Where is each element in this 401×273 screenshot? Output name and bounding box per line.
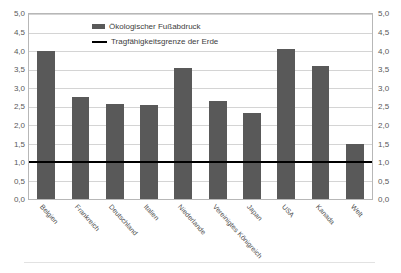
y-tick-right: 4,5 (378, 29, 400, 37)
x-label-slot: Italien (132, 201, 167, 271)
chart-legend: Ökologischer Fußabdruck Tragfähigkeitsgr… (92, 22, 218, 46)
y-tick-left: 0,5 (3, 178, 25, 186)
x-label-slot: Belgien (28, 201, 63, 271)
y-tick-right: 0,0 (378, 196, 400, 204)
y-tick-left: 2,5 (3, 103, 25, 111)
y-tick-right: 5,0 (378, 10, 400, 18)
y-tick-right: 4,0 (378, 48, 400, 56)
bar[interactable] (37, 51, 55, 199)
bar-slot (29, 14, 63, 199)
y-tick-left: 2,0 (3, 122, 25, 130)
x-axis-label: Kanada (315, 203, 336, 226)
x-label-slot: Welt (339, 201, 374, 271)
y-tick-left: 1,0 (3, 159, 25, 167)
x-label-slot: Kanada (304, 201, 339, 271)
y-tick-left: 4,5 (3, 29, 25, 37)
bar-slot (338, 14, 372, 199)
x-label-slot: Deutschland (97, 201, 132, 271)
bar[interactable] (209, 101, 227, 199)
bar-slot (235, 14, 269, 199)
y-tick-right: 1,0 (378, 159, 400, 167)
bar-slot (303, 14, 337, 199)
x-axis-label: Italien (143, 203, 161, 222)
legend-item-threshold: Tragfähigkeitsgrenze der Erde (92, 37, 218, 46)
bar[interactable] (346, 144, 364, 200)
x-axis-label: Japan (246, 203, 264, 222)
y-tick-left: 3,5 (3, 66, 25, 74)
bar[interactable] (277, 49, 295, 199)
y-tick-right: 3,5 (378, 66, 400, 74)
y-tick-left: 0,0 (3, 196, 25, 204)
bar[interactable] (243, 113, 261, 199)
y-tick-left: 3,0 (3, 85, 25, 93)
x-label-slot: Niederlande (166, 201, 201, 271)
bar[interactable] (312, 66, 330, 199)
y-tick-left: 5,0 (3, 10, 25, 18)
bar[interactable] (72, 97, 90, 199)
y-tick-right: 2,5 (378, 103, 400, 111)
x-axis-label: Belgien (39, 203, 60, 225)
x-label-slot: USA (270, 201, 305, 271)
y-tick-left: 1,5 (3, 141, 25, 149)
y-tick-right: 1,5 (378, 141, 400, 149)
x-label-slot: Frankreich (63, 201, 98, 271)
line-swatch-icon (92, 41, 107, 43)
x-axis-label: USA (281, 203, 296, 218)
threshold-line (29, 161, 372, 163)
y-tick-right: 2,0 (378, 122, 400, 130)
x-label-slot: Vereinigtes Königreich (201, 201, 236, 271)
bar[interactable] (106, 104, 124, 199)
bar[interactable] (174, 68, 192, 199)
legend-label: Tragfähigkeitsgrenze der Erde (111, 37, 218, 46)
x-axis-labels: BelgienFrankreichDeutschlandItalienNiede… (28, 201, 373, 271)
legend-item-footprint: Ökologischer Fußabdruck (92, 22, 218, 31)
bottom-divider (24, 262, 375, 263)
bar-slot (269, 14, 303, 199)
bar[interactable] (140, 105, 158, 199)
y-tick-left: 4,0 (3, 48, 25, 56)
ecological-footprint-chart: 5,0 4,5 4,0 3,5 3,0 2,5 2,0 1,5 1,0 0,5 … (0, 0, 401, 273)
y-tick-right: 0,5 (378, 178, 400, 186)
legend-label: Ökologischer Fußabdruck (109, 22, 201, 31)
y-tick-right: 3,0 (378, 85, 400, 93)
x-axis-label: Welt (350, 203, 364, 218)
x-label-slot: Japan (235, 201, 270, 271)
gridline (29, 199, 372, 200)
bar-swatch-icon (92, 24, 105, 29)
